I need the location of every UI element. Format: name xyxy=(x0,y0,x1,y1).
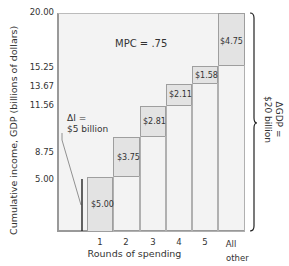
delta-gdp-line-2: $20 billion xyxy=(262,96,273,143)
x-tick-2: 2 xyxy=(113,237,139,247)
x-tick-1: 1 xyxy=(87,237,113,247)
x-tick-5: 5 xyxy=(192,237,218,247)
delta-gdp-annotation: ΔGDP = $20 billion xyxy=(262,96,284,143)
x-tick-3: 3 xyxy=(140,237,166,247)
x-tick-4: 4 xyxy=(166,237,192,247)
delta-gdp-line-1: ΔGDP = xyxy=(273,96,284,143)
annotation-lines xyxy=(0,0,289,266)
x-axis-label: Rounds of spending xyxy=(0,248,279,259)
